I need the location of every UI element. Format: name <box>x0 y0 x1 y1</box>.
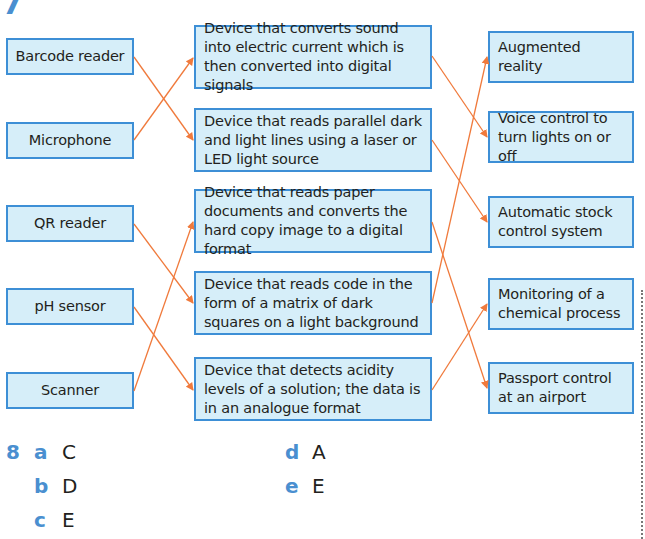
arrow-qr-device-to-ar <box>432 57 487 303</box>
arrow-barcode-to-barcode-device <box>134 57 193 140</box>
arrow-ph-to-ph-device <box>134 307 193 390</box>
arrow-qr-to-qr-device <box>134 224 193 303</box>
arrow-ph-device-to-chemical <box>432 304 487 390</box>
middle-item-ph-device[interactable]: Device that detects acidity levels of a … <box>194 357 432 421</box>
arrow-microphone-to-sound-device <box>134 58 193 140</box>
left-item-label: Microphone <box>29 131 111 150</box>
arrow-sound-device-to-voice <box>432 56 487 137</box>
middle-item-label: Device that detects acidity levels of a … <box>204 361 426 418</box>
question-7-number: 7 <box>2 0 23 21</box>
arrow-scanner-device-to-passport <box>432 222 487 388</box>
middle-item-qr-device[interactable]: Device that reads code in the form of a … <box>194 271 432 335</box>
arrow-barcode-device-to-stock <box>432 140 487 222</box>
answer-value: E <box>312 474 325 498</box>
left-item-scanner[interactable]: Scanner <box>6 372 134 409</box>
middle-item-barcode-device[interactable]: Device that reads parallel dark and ligh… <box>194 108 432 172</box>
arrow-scanner-to-scanner-device <box>134 222 193 391</box>
right-item-stock-control[interactable]: Automatic stock control system <box>488 196 634 248</box>
left-item-microphone[interactable]: Microphone <box>6 122 134 159</box>
answer-value: A <box>312 440 326 464</box>
left-item-label: Scanner <box>41 381 99 400</box>
left-item-label: QR reader <box>34 214 106 233</box>
right-item-label: Augmented reality <box>498 38 628 76</box>
answer-value: D <box>62 474 77 498</box>
middle-item-sound-device[interactable]: Device that converts sound into electric… <box>194 25 432 89</box>
answer-letter: a <box>34 440 48 464</box>
right-item-chemical-monitoring[interactable]: Monitoring of a chemical process <box>488 278 634 330</box>
right-item-label: Monitoring of a chemical process <box>498 285 628 323</box>
margin-rule <box>641 290 643 539</box>
middle-item-label: Device that converts sound into electric… <box>204 19 426 95</box>
answer-letter: c <box>34 508 46 532</box>
right-item-passport-control[interactable]: Passport control at an airport <box>488 362 634 414</box>
left-item-qr-reader[interactable]: QR reader <box>6 205 134 242</box>
right-item-label: Voice control to turn lights on or off <box>498 109 628 166</box>
answer-value: E <box>62 508 75 532</box>
answer-letter: b <box>34 474 48 498</box>
right-item-label: Automatic stock control system <box>498 203 628 241</box>
right-item-label: Passport control at an airport <box>498 369 628 407</box>
left-item-label: Barcode reader <box>16 47 125 66</box>
middle-item-scanner-device[interactable]: Device that reads paper documents and co… <box>194 189 432 253</box>
left-item-label: pH sensor <box>35 297 106 316</box>
answer-letter: d <box>285 440 299 464</box>
right-item-voice-control[interactable]: Voice control to turn lights on or off <box>488 111 634 163</box>
right-item-augmented-reality[interactable]: Augmented reality <box>488 31 634 83</box>
answer-value: C <box>62 440 76 464</box>
middle-item-label: Device that reads parallel dark and ligh… <box>204 112 426 169</box>
middle-item-label: Device that reads code in the form of a … <box>204 275 426 332</box>
answer-letter: e <box>285 474 299 498</box>
question-8-number: 8 <box>6 440 20 464</box>
left-item-ph-sensor[interactable]: pH sensor <box>6 288 134 325</box>
middle-item-label: Device that reads paper documents and co… <box>204 183 426 259</box>
left-item-barcode-reader[interactable]: Barcode reader <box>6 38 134 75</box>
